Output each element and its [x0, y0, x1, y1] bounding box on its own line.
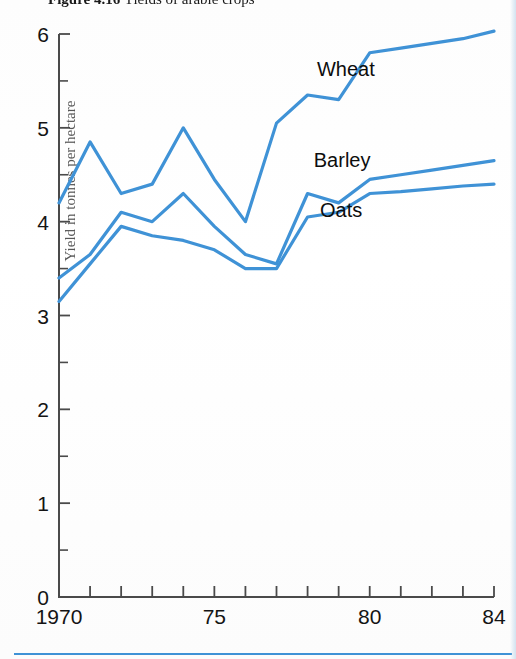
y-tick-label: 4 — [37, 211, 49, 234]
series-label-wheat: Wheat — [317, 58, 375, 80]
y-tick-label: 2 — [37, 398, 49, 421]
x-tick-label: 1970 — [36, 605, 83, 628]
y-tick-label: 5 — [37, 117, 49, 140]
chart-series-lines — [59, 31, 494, 301]
series-line-wheat — [59, 31, 494, 221]
y-axis-tick-labels: 0123456 — [37, 23, 49, 609]
y-tick-label: 6 — [37, 23, 49, 46]
chart-axes — [59, 34, 494, 597]
x-tick-label: 75 — [203, 605, 226, 628]
y-tick-label: 1 — [37, 492, 49, 515]
series-line-barley — [59, 161, 494, 278]
series-label-barley: Barley — [314, 149, 371, 171]
chart-svg: 0123456 1970758084 WheatBarleyOats — [0, 0, 516, 640]
line-chart: 0123456 1970758084 WheatBarleyOats — [0, 0, 516, 640]
y-tick-label: 3 — [37, 305, 49, 328]
page-edge-shadow — [510, 0, 516, 659]
x-axis-tick-labels: 1970758084 — [36, 605, 506, 628]
page-bottom-rule — [14, 653, 512, 655]
x-tick-label: 80 — [358, 605, 381, 628]
x-tick-label: 84 — [482, 605, 506, 628]
series-line-oats — [59, 184, 494, 301]
chart-ticks — [59, 34, 494, 597]
series-label-oats: Oats — [320, 199, 362, 221]
